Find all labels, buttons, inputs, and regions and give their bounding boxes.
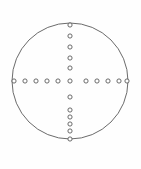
dot-marker (68, 137, 72, 141)
dot-marker (68, 95, 72, 99)
dot-marker (68, 34, 72, 38)
dot-marker (68, 56, 72, 60)
reticle-diagram: Reticle Dot Pattern (0, 0, 141, 169)
dot-marker (68, 45, 72, 49)
dot-marker (68, 79, 72, 83)
dot-marker (68, 23, 72, 27)
dot-marker (68, 115, 72, 119)
center-dot (68, 79, 72, 83)
dot-marker (12, 79, 16, 83)
dot-marker (56, 79, 60, 83)
dot-marker (68, 108, 72, 112)
dot-marker (117, 79, 121, 83)
dot-marker (125, 79, 129, 83)
dot-marker (68, 129, 72, 133)
reticle-canvas (0, 0, 141, 169)
dot-marker (68, 66, 72, 70)
dot-marker (45, 79, 49, 83)
dot-marker (84, 79, 88, 83)
dot-marker (68, 122, 72, 126)
dot-marker (34, 79, 38, 83)
dot-marker (95, 79, 99, 83)
dot-marker (23, 79, 27, 83)
dot-marker (106, 79, 110, 83)
